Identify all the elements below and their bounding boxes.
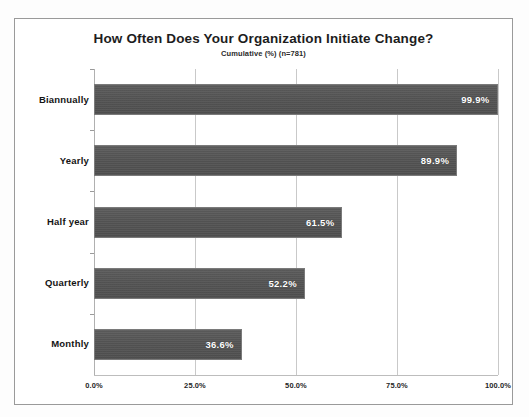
bar-value-label: 52.2% [268,278,303,289]
bar[interactable]: 61.5% [94,207,342,238]
category-label: Monthly [51,339,89,349]
category-label: Biannually [39,95,89,105]
bar-value-label: 61.5% [306,217,341,228]
bar-value-label: 36.6% [205,339,240,350]
chart-subtitle: Cumulative (%) (n=781) [15,49,512,58]
bar-row: 36.6% [94,329,498,360]
category-axis: BiannuallyYearlyHalf yearQuarterlyMonthl… [29,69,89,375]
bar[interactable]: 89.9% [94,145,457,176]
category-tick-mark [90,253,94,254]
bar-value-label: 89.9% [421,155,456,166]
bar-row: 99.9% [94,84,498,115]
bar[interactable]: 36.6% [94,329,242,360]
category-tick-mark [90,314,94,315]
chart-title: How Often Does Your Organization Initiat… [15,31,512,46]
x-tick-label: 100.0% [485,381,511,390]
category-label: Half year [47,217,89,227]
x-tick-label: 0.0% [85,381,103,390]
bar[interactable]: 52.2% [94,268,305,299]
x-tick-label: 25.0% [184,381,206,390]
category-label: Quarterly [45,278,89,288]
plot-area: 99.9%89.9%61.5%52.2%36.6% [94,69,498,375]
category-tick-mark [90,191,94,192]
x-axis-baseline [94,375,498,376]
bar-row: 89.9% [94,145,498,176]
category-tick-mark [90,130,94,131]
x-tick-label: 50.0% [285,381,307,390]
category-tick-mark [90,69,94,70]
chart-frame: How Often Does Your Organization Initiat… [14,18,513,405]
bar-row: 52.2% [94,268,498,299]
bar-value-label: 99.9% [461,94,496,105]
bar[interactable]: 99.9% [94,84,498,115]
gridline-100.0 [498,69,499,375]
x-axis-tick-labels: 0.0%25.0%50.0%75.0%100.0% [94,381,498,395]
bar-row: 61.5% [94,207,498,238]
x-tick-label: 75.0% [386,381,408,390]
page-background: How Often Does Your Organization Initiat… [0,0,529,417]
category-label: Yearly [60,156,89,166]
